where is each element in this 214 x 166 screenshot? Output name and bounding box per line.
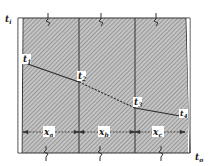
inside-temp-label: ti [5,14,12,25]
outside-temp-label: to [195,152,203,163]
composite-wall-diagram: xa xb xc ti to t1 t2 t3 t4 [0,0,214,166]
